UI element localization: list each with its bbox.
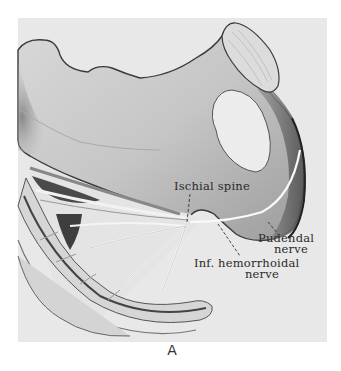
anatomical-figure: Ischial spine Pudendal nerve Inf. hemorr… — [0, 0, 341, 371]
figure-letter: A — [164, 342, 180, 358]
inf-hemorrhoidal-nerve-label-line2: nerve — [245, 268, 279, 280]
pelvis-illustration — [0, 0, 341, 371]
pudendal-nerve-label-line2: nerve — [274, 243, 308, 255]
ischial-spine-label: Ischial spine — [174, 180, 250, 192]
